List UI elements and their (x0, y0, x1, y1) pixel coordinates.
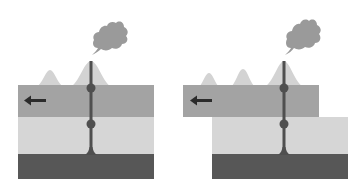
magma-conduit (283, 61, 286, 155)
magma-chamber-upper (87, 84, 96, 93)
lower-mantle-layer (18, 154, 154, 179)
volcano-oldest (200, 73, 218, 86)
ash-plume-icon (92, 22, 128, 55)
magma-chamber-lower (87, 120, 96, 129)
magma-chamber-upper (280, 84, 289, 93)
panel-before (18, 22, 154, 179)
hotspot-diagram (0, 0, 361, 190)
volcano-old (232, 69, 254, 86)
volcano-old (38, 70, 62, 86)
magma-chamber-lower (280, 120, 289, 129)
ash-plume-icon (285, 20, 321, 55)
upper-mantle-layer (18, 117, 154, 154)
magma-conduit (90, 61, 93, 155)
panel-after (183, 20, 348, 179)
lower-mantle-layer (212, 154, 348, 179)
